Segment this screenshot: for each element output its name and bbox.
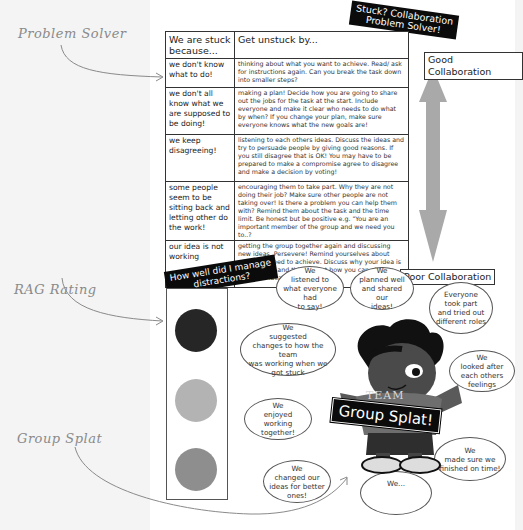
solution-cell: thinking about what you want to achieve.… xyxy=(235,59,409,88)
arrow-to-rag xyxy=(62,278,162,321)
speech-bubble-blank[interactable]: We... xyxy=(360,471,432,515)
solution-cell: making a plan! Decide how you are going … xyxy=(235,88,409,135)
header-problem: We are stuck because... xyxy=(166,32,235,59)
poor-collaboration-label: Poor Collaboration xyxy=(400,269,495,285)
speech-bubble: We enjoyed working together! xyxy=(244,398,312,440)
speech-bubble: We changed our ideas for better ones! xyxy=(263,460,331,503)
rag-rating-box xyxy=(166,288,228,500)
problem-cell: we don't know what to do! xyxy=(166,59,235,88)
table-row: we don't know what to do! thinking about… xyxy=(166,59,409,88)
rag-light-amber[interactable] xyxy=(175,379,217,422)
good-collaboration-label: Good Collaboration xyxy=(424,52,523,80)
speech-bubble: We suggested changes to how the team was… xyxy=(240,323,336,376)
solution-cell: encouraging them to take part. Why they … xyxy=(235,182,409,241)
header-solution: Get unstuck by... xyxy=(235,32,409,59)
arrow-to-table xyxy=(61,45,162,77)
collaboration-scale-arrow xyxy=(419,68,447,262)
mascot-shirt-text: TEAM xyxy=(366,389,405,402)
table-row: we keep disagreeing! listening to each o… xyxy=(166,135,409,182)
rag-light-green[interactable] xyxy=(175,448,217,491)
table-header-row: We are stuck because... Get unstuck by..… xyxy=(166,32,409,59)
solution-cell: listening to each others ideas. Discuss … xyxy=(235,135,409,182)
table-row: we don't all know what we are supposed t… xyxy=(166,88,409,135)
speech-bubble: We listened to what everyone had to say! xyxy=(276,266,344,310)
stuck-table: We are stuck because... Get unstuck by..… xyxy=(165,31,409,288)
speech-bubble: We planned well and shared our ideas! xyxy=(350,267,414,310)
table-row: some people seem to be sitting back and … xyxy=(166,182,409,241)
rag-light-red[interactable] xyxy=(175,309,217,352)
problem-cell: some people seem to be sitting back and … xyxy=(166,182,235,241)
problem-cell: we keep disagreeing! xyxy=(166,135,235,182)
problem-cell: we don't all know what we are supposed t… xyxy=(166,88,235,135)
